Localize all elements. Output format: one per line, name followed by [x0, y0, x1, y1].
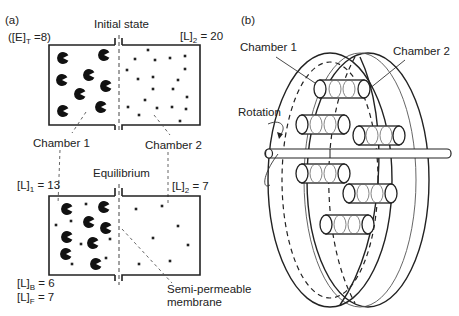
panel-a-label: (a)	[5, 14, 19, 26]
ligand-dot-icon	[177, 225, 180, 228]
enzyme-icon	[98, 49, 109, 61]
enzyme-icon	[56, 74, 67, 86]
ligand-dot-icon	[177, 79, 180, 82]
ligand-chamber2-eq: [L]2 = 7	[172, 180, 209, 195]
enzyme-icon	[60, 248, 71, 260]
ligand-dot-icon	[187, 244, 190, 247]
ligand-dot-icon	[152, 88, 155, 91]
enzyme-icon	[100, 222, 111, 234]
ligand-dot-icon	[179, 120, 182, 123]
enzyme-total-label: ([E]T =8)	[8, 31, 51, 46]
rotation-label: Rotation	[238, 106, 281, 118]
equilibrium-title: Equilibrium	[93, 167, 150, 179]
ligand-dot-icon	[55, 224, 58, 227]
ligand-dot-icon	[109, 238, 112, 241]
ligand-dot-icon	[184, 68, 187, 71]
ligand-dot-icon	[144, 99, 147, 102]
enzymes-equilibrium	[60, 201, 111, 270]
ligand-bound-label: [L]B = 6	[17, 277, 55, 292]
chamber1-label-a: Chamber 1	[33, 137, 90, 149]
enzyme-icon	[74, 88, 85, 100]
enzyme-icon	[100, 80, 111, 92]
chamber2-label-b: Chamber 2	[393, 45, 450, 57]
panel-b-label: (b)	[241, 14, 255, 26]
axle	[265, 149, 451, 158]
panel-a: (a) Initial state ([E]T =8) [L]2 = 20 Ch…	[5, 14, 251, 308]
ligand-dot-icon	[85, 203, 88, 206]
ligand-dot-icon	[71, 263, 74, 266]
ligand-dot-icon	[154, 59, 157, 62]
ligand-dot-icon	[184, 55, 187, 58]
ligands-initial	[126, 49, 189, 123]
ligand-dot-icon	[134, 58, 137, 61]
ligand-chamber1-eq: [L]1 = 13	[17, 179, 60, 194]
enzyme-icon	[87, 237, 98, 249]
ligand-dot-icon	[152, 76, 155, 79]
enzyme-icon	[83, 69, 94, 81]
equilibrium-dialysis-cell	[49, 184, 200, 285]
ligand-dot-icon	[147, 49, 150, 52]
enzyme-icon	[95, 101, 106, 113]
enzymes-initial	[56, 49, 111, 117]
membrane-label-line1: Semi-permeable	[167, 283, 251, 295]
enzyme-icon	[57, 52, 68, 64]
ligand-dot-icon	[126, 69, 129, 72]
ligand-dot-icon	[138, 114, 141, 117]
ligand-dot-icon	[127, 106, 130, 109]
ligand-dot-icon	[138, 263, 141, 266]
enzyme-icon	[90, 258, 101, 270]
initial-dialysis-cell	[49, 35, 200, 133]
equilibrium-dialysis-figure: (a) Initial state ([E]T =8) [L]2 = 20 Ch…	[0, 0, 459, 316]
initial-state-title: Initial state	[94, 18, 149, 30]
enzyme-icon	[83, 216, 94, 228]
rotating-dialyzer	[265, 53, 451, 307]
chamber1-label-b: Chamber 1	[240, 41, 297, 53]
ligand-free-label: [L]F = 7	[17, 291, 54, 306]
enzyme-icon	[98, 201, 109, 213]
enzyme-icon	[61, 203, 72, 215]
ligand-dot-icon	[152, 237, 155, 240]
ligand-dot-icon	[172, 88, 175, 91]
ligand-dot-icon	[169, 260, 172, 263]
membrane-label-line2: membrane	[167, 296, 222, 308]
chamber2-label-a: Chamber 2	[145, 139, 202, 151]
enzyme-icon	[61, 231, 72, 243]
ligand-dot-icon	[135, 208, 138, 211]
ligand-dot-icon	[185, 108, 188, 111]
ligand-chamber2-initial: [L]2 = 20	[180, 30, 223, 45]
panel-b: (b) Chamber 1 Chamber 2 Rotation	[238, 14, 451, 307]
enzyme-icon	[57, 105, 68, 117]
ligand-dot-icon	[137, 78, 140, 81]
ligand-dot-icon	[105, 257, 108, 260]
ligand-dot-icon	[156, 107, 159, 110]
ligand-dot-icon	[186, 96, 189, 99]
ligand-dot-icon	[70, 220, 73, 223]
ligand-dot-icon	[161, 205, 164, 208]
ligand-dot-icon	[169, 57, 172, 60]
ligand-dot-icon	[80, 243, 83, 246]
ligands-equilibrium	[55, 203, 190, 266]
ligand-dot-icon	[171, 106, 174, 109]
